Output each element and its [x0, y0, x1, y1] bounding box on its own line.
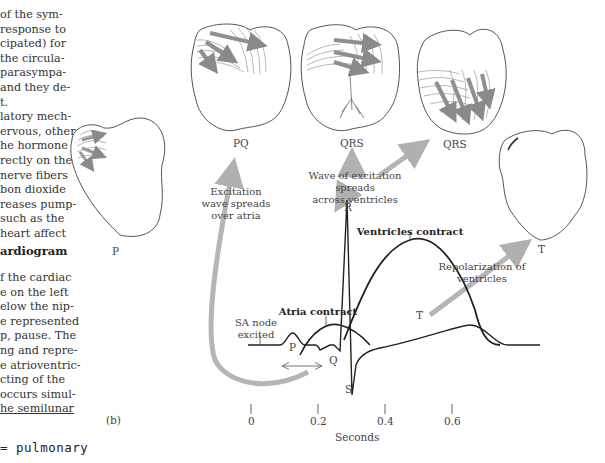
annotation-repolarization: Repolarization of ventricles	[432, 261, 532, 285]
annotation-line: SA node	[228, 317, 284, 329]
annotation-line: excited	[228, 329, 284, 341]
heart-qrs-1	[301, 25, 399, 131]
heart-pq	[191, 24, 291, 131]
annotation-line: across ventricles	[290, 194, 420, 206]
heart-label-pq: PQ	[233, 137, 249, 149]
x-tick-label: 0	[248, 415, 255, 427]
annotation-line: over atria	[200, 210, 272, 222]
heart-label-qrs-1: QRS	[340, 137, 364, 149]
x-tick-label: 0.2	[310, 415, 327, 427]
heart-t	[499, 130, 587, 240]
x-axis-ticks	[251, 404, 452, 414]
x-tick-label: 0.6	[444, 415, 461, 427]
annotation-line: wave spreads	[200, 198, 272, 210]
heart-p	[71, 118, 165, 236]
wave-label-r: R	[344, 201, 352, 213]
panel-label: (b)	[106, 414, 121, 426]
heart-qrs-2	[417, 29, 506, 134]
wave-label-q: Q	[329, 354, 338, 366]
wave-label-t: T	[416, 309, 423, 321]
annotation-line: ventricles	[432, 273, 532, 285]
x-tick-label: 0.4	[377, 415, 394, 427]
annotation-line: Wave of excitation spreads	[290, 170, 420, 194]
annotation-excitation-atria: Excitation wave spreads over atria	[200, 186, 272, 222]
annotation-ventricles-contract: Ventricles contract	[345, 226, 475, 238]
annotation-line: Repolarization of	[432, 261, 532, 273]
heart-label-qrs-2: QRS	[443, 138, 467, 150]
annotation-line: Excitation	[200, 186, 272, 198]
wave-label-s: S	[345, 383, 352, 395]
x-axis-label: Seconds	[335, 431, 379, 443]
annotation-excitation-ventricles: Wave of excitation spreads across ventri…	[290, 170, 420, 206]
annotation-sa-node: SA node excited	[228, 317, 284, 341]
heart-label-p: P	[112, 245, 119, 257]
ecg-heart-diagram	[0, 0, 605, 463]
wave-label-p: P	[289, 341, 296, 353]
heart-label-t: T	[538, 243, 545, 255]
